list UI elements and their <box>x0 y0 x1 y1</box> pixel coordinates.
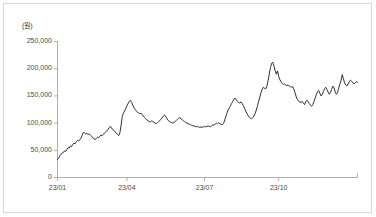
chart-axes <box>54 41 358 181</box>
price-line-series <box>58 62 358 159</box>
chart-plot-area <box>0 0 376 217</box>
chart-screenshot: (원) 250,000200,000150,000100,00050,0000 … <box>0 0 376 217</box>
